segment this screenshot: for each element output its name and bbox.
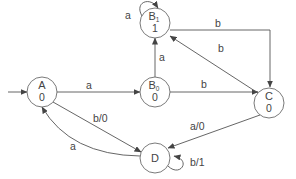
state-C-output: 0 [266, 102, 272, 114]
edge-C-B1 [170, 36, 258, 93]
edge-label-A-D: b/0 [93, 112, 108, 124]
state-D-name: D [151, 152, 159, 164]
edge-A-D [53, 102, 141, 152]
state-D[interactable]: D [140, 143, 170, 173]
edge-label-B0-B1: a [159, 51, 165, 63]
edge-label-C-D: a/0 [190, 120, 205, 132]
edge-label-D-A: a [70, 140, 76, 152]
state-B1[interactable]: B1 1 [140, 8, 170, 38]
state-A[interactable]: A 0 [27, 77, 57, 107]
edge-label-D-D: b/1 [190, 156, 205, 168]
edge-D-A [42, 107, 140, 156]
state-diagram: a b/0 a a b a b b a/0 b/1 A 0 B1 1 B0 0 [0, 0, 296, 179]
state-B1-output: 1 [152, 22, 158, 34]
state-B0-letter: B [149, 79, 156, 91]
edge-label-C-B1: b [218, 42, 224, 54]
edge-B1-C [170, 30, 270, 87]
edge-label-B1-B1: a [125, 9, 131, 21]
edge-C-D [168, 115, 260, 148]
edge-label-B1-C: b [215, 17, 221, 29]
edge-label-A-B0: a [86, 79, 92, 91]
state-B0[interactable]: B0 0 [140, 77, 170, 107]
state-C-name: C [265, 90, 273, 102]
state-B0-output: 0 [152, 91, 158, 103]
state-B1-letter: B [149, 10, 156, 22]
state-C[interactable]: C 0 [254, 88, 284, 118]
state-A-output: 0 [39, 91, 45, 103]
state-A-name: A [38, 79, 46, 91]
edge-label-B0-C: b [201, 78, 207, 90]
